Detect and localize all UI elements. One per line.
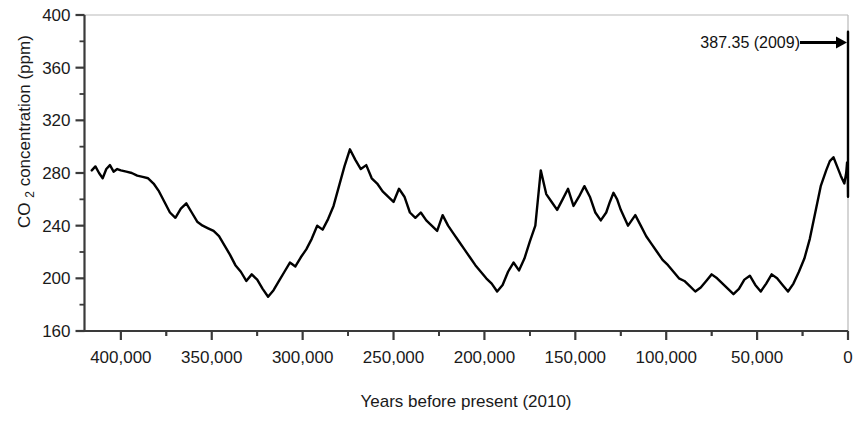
x-axis-title: Years before present (2010) [360, 392, 571, 411]
right-arrow-icon [800, 37, 847, 49]
x-tick-label: 100,000 [635, 348, 696, 367]
x-tick-label: 400,000 [90, 348, 151, 367]
co2-line-chart: 160200240280320360400 400,000350,000300,… [0, 0, 860, 423]
svg-text:CO 2 concentr: CO 2 concentration (ppm) [15, 35, 38, 228]
chart-page: 160200240280320360400 400,000350,000300,… [0, 0, 860, 423]
y-tick-label: 360 [42, 59, 70, 78]
x-axis-ticks [121, 331, 848, 340]
y-axis-title-rest: concentration (ppm) [15, 35, 34, 186]
x-tick-label: 200,000 [454, 348, 515, 367]
y-tick-label: 240 [42, 217, 70, 236]
x-tick-label: 300,000 [272, 348, 333, 367]
y-tick-label: 280 [42, 164, 70, 183]
annotation-label: 387.35 (2009) [700, 34, 800, 51]
y-axis-title-subscript: 2 [23, 191, 37, 198]
x-tick-label: 50,000 [731, 348, 783, 367]
y-tick-label: 160 [42, 322, 70, 341]
y-tick-label: 400 [42, 6, 70, 25]
y-axis-ticks [76, 15, 85, 331]
modern-co2-annotation: 387.35 (2009) [700, 34, 847, 51]
co2-series-line [92, 32, 848, 297]
x-tick-label: 250,000 [363, 348, 424, 367]
y-tick-label: 320 [42, 111, 70, 130]
x-axis-tick-labels: 400,000350,000300,000250,000200,000150,0… [90, 348, 853, 367]
x-tick-label: 0 [843, 348, 852, 367]
y-axis-title-co: CO [15, 203, 34, 229]
plot-frame [84, 15, 848, 331]
y-axis-tick-labels: 160200240280320360400 [42, 6, 70, 341]
x-tick-label: 150,000 [545, 348, 606, 367]
y-axis-title: CO 2 concentration (ppm) [15, 35, 38, 228]
x-tick-label: 350,000 [181, 348, 242, 367]
y-tick-label: 200 [42, 269, 70, 288]
